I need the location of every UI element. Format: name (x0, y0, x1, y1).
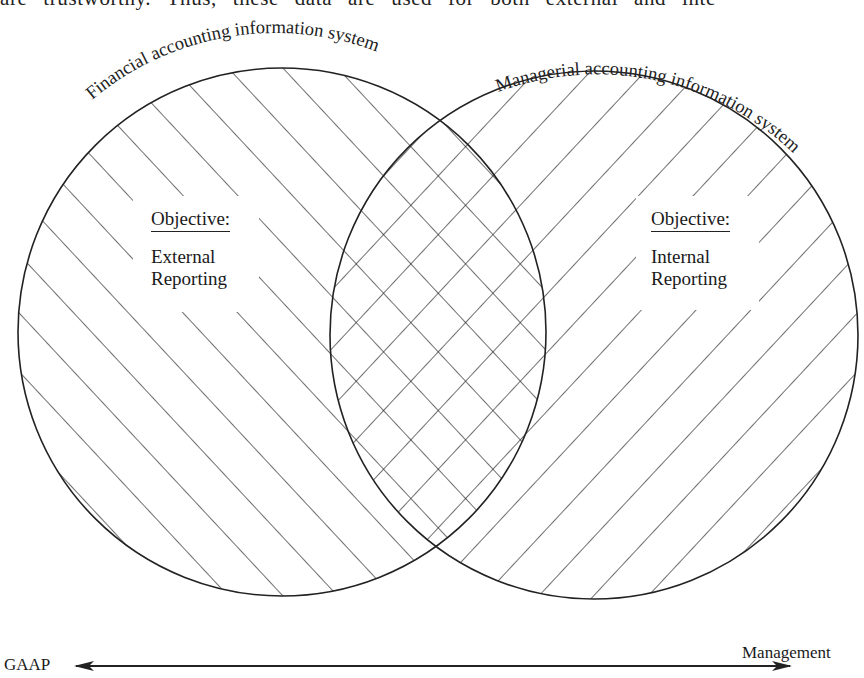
right-objective-line2: Reporting (651, 268, 730, 290)
right-objective-label: Objective: Internal Reporting (651, 208, 730, 290)
venn-diagram: Financial accounting information system … (0, 0, 864, 678)
management-label: Management (742, 643, 831, 663)
left-objective-heading: Objective: (151, 208, 230, 232)
left-objective-line1: External (151, 246, 230, 268)
right-objective-heading: Objective: (651, 208, 730, 232)
left-objective-label: Objective: External Reporting (151, 208, 230, 290)
left-objective-line2: Reporting (151, 268, 230, 290)
gaap-label: GAAP (4, 655, 50, 675)
right-objective-line1: Internal (651, 246, 730, 268)
